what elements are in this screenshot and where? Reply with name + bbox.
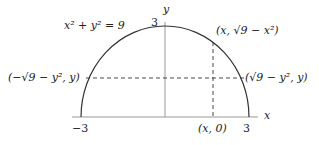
point-top-right-label: (x, √9 − x²) xyxy=(216,25,279,37)
point-bottom-label: (x, 0) xyxy=(198,123,227,135)
tick-left-label: −3 xyxy=(72,123,88,135)
equation-label: x² + y² = 9 xyxy=(64,20,125,32)
semicircle-diagram: x² + y² = 9 3 y (x, √9 − x²) (−√9 − y², … xyxy=(0,0,319,145)
point-right-label: (√9 − y², y) xyxy=(245,72,308,84)
x-axis-label: x xyxy=(264,110,270,122)
y-axis-label: y xyxy=(163,4,169,16)
point-left-label: (−√9 − y², y) xyxy=(8,72,80,84)
tick-right-label: 3 xyxy=(243,123,250,135)
tick-top-label: 3 xyxy=(151,17,158,29)
